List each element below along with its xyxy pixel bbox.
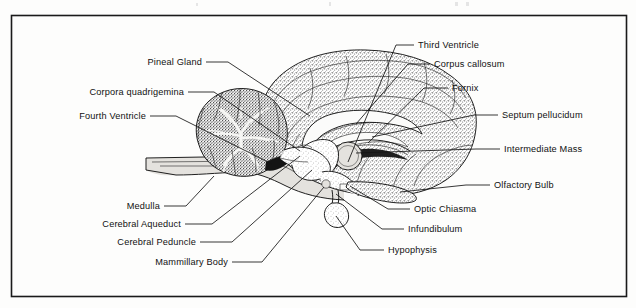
label-fourth-ventricle: Fourth Ventricle xyxy=(79,111,146,121)
leader-medulla xyxy=(164,176,214,206)
label-corpora-quadrigemina: Corpora quadrigemina xyxy=(90,87,185,97)
label-olfactory-bulb: Olfactory Bulb xyxy=(494,180,554,190)
label-cerebral-peduncle: Cerebral Peduncle xyxy=(117,237,196,247)
label-third-ventricle: Third Ventricle xyxy=(418,40,479,50)
label-pineal-gland: Pineal Gland xyxy=(148,57,202,67)
label-cerebral-aqueduct: Cerebral Aqueduct xyxy=(102,219,181,229)
brain-diagram-figure: Pineal Gland Corpora quadrigemina Fourth… xyxy=(0,0,636,308)
label-optic-chiasma: Optic Chiasma xyxy=(414,204,477,214)
label-septum-pellucidum: Septum pellucidum xyxy=(502,110,583,120)
label-hypophysis: Hypophysis xyxy=(388,245,437,255)
scan-artifacts xyxy=(196,2,469,6)
label-corpus-callosum: Corpus callosum xyxy=(434,59,505,69)
label-mammillary-body: Mammillary Body xyxy=(155,257,228,267)
label-medulla: Medulla xyxy=(127,201,161,211)
label-fornix: Fornix xyxy=(452,83,479,93)
label-infundibulum: Infundibulum xyxy=(408,224,463,234)
brain-diagram-canvas: Pineal Gland Corpora quadrigemina Fourth… xyxy=(0,0,636,308)
label-intermediate-mass: Intermediate Mass xyxy=(504,144,582,154)
